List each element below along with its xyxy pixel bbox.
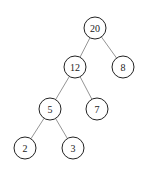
node-label: 2: [23, 143, 28, 154]
node-label: 12: [70, 62, 80, 73]
edge-n20-n8: [101, 37, 116, 58]
binary-tree-diagram: 201285723: [0, 0, 142, 171]
tree-node-5: 5: [39, 98, 61, 120]
node-label: 7: [95, 104, 100, 115]
node-label: 3: [71, 143, 76, 154]
edge-n20-n12: [80, 38, 90, 57]
tree-node-8: 8: [112, 56, 134, 78]
edge-n12-n5: [56, 76, 70, 99]
node-label: 5: [48, 104, 53, 115]
edge-n5-n3: [56, 118, 68, 138]
edges-group: [31, 37, 117, 139]
tree-node-20: 20: [84, 17, 106, 39]
edge-n12-n7: [80, 77, 92, 100]
node-label: 8: [121, 62, 126, 73]
node-label: 20: [90, 23, 100, 34]
tree-node-3: 3: [62, 137, 84, 159]
tree-node-12: 12: [64, 56, 86, 78]
edge-n5-n2: [31, 118, 44, 138]
tree-node-2: 2: [14, 137, 36, 159]
tree-node-7: 7: [86, 98, 108, 120]
